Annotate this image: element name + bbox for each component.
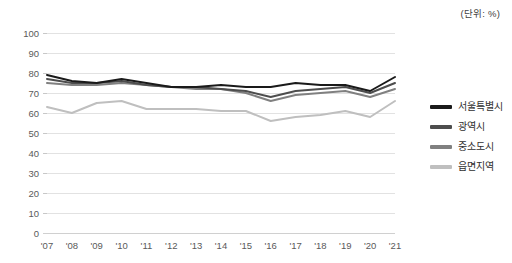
chart-legend: 서울특별시광역시중소도시읍면지역 [430,100,503,173]
legend-swatch [430,125,452,129]
x-tick-label: '14 [215,240,227,251]
x-tick-label: '17 [289,240,301,251]
x-tick-label: '09 [91,240,103,251]
y-tick-label: 70 [28,88,39,99]
y-tick-label: 40 [28,148,39,159]
y-tick-label: 50 [28,128,39,139]
x-tick-label: '16 [265,240,277,251]
x-axis-tick-labels: '07'08'09'10'11'12'13'14'15'16'17'18'19'… [41,240,401,251]
x-tick-label: '08 [66,240,78,251]
x-tick-label: '10 [115,240,127,251]
x-tick-label: '20 [364,240,376,251]
legend-swatch [430,105,452,109]
x-tick-label: '12 [165,240,177,251]
legend-label: 광역시 [458,120,485,133]
data-series-group [47,75,395,121]
x-tick-label: '07 [41,240,53,251]
x-tick-label: '18 [314,240,326,251]
y-tick-label: 60 [28,108,39,119]
y-tick-label: 10 [28,208,39,219]
x-tick-label: '21 [389,240,401,251]
y-tick-label: 20 [28,188,39,199]
legend-label: 중소도시 [458,140,494,153]
series-line [47,101,395,121]
line-chart: (단위: %) 0102030405060708090100 '07'08'09… [0,0,512,263]
y-tick-label: 90 [28,48,39,59]
legend-swatch [430,165,452,169]
y-tickmarks [43,34,47,234]
legend-label: 읍면지역 [458,160,494,173]
legend-item[interactable]: 서울특별시 [430,100,503,113]
y-tick-label: 80 [28,68,39,79]
x-tick-label: '13 [190,240,202,251]
legend-swatch [430,145,452,149]
legend-label: 서울특별시 [458,100,503,113]
y-tick-label: 0 [34,228,39,239]
legend-item[interactable]: 광역시 [430,120,503,133]
y-axis-tick-labels: 0102030405060708090100 [23,28,39,239]
gridlines [47,34,395,234]
y-tick-label: 100 [23,28,39,39]
legend-item[interactable]: 중소도시 [430,140,503,153]
legend-item[interactable]: 읍면지역 [430,160,503,173]
y-tick-label: 30 [28,168,39,179]
x-tick-label: '11 [141,240,153,251]
x-tick-label: '15 [240,240,252,251]
x-tick-label: '19 [339,240,351,251]
